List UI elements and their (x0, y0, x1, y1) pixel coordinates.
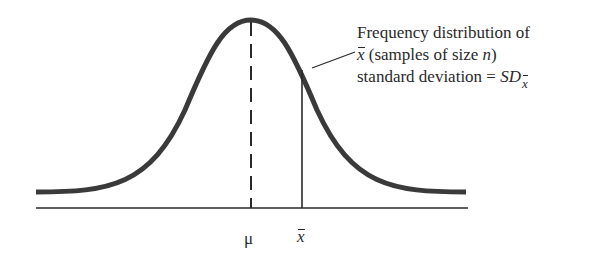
mu-label: μ (244, 228, 253, 250)
sd-subscript-x-bar: x (522, 73, 528, 95)
x-bar-symbol: x (357, 44, 365, 66)
n-symbol: n (483, 45, 492, 64)
annotation-line-2-text: (samples of size (365, 45, 483, 64)
annotation-leader-line (312, 52, 355, 68)
annotation-line-2-close: ) (491, 45, 497, 64)
sd-symbol: SD (500, 67, 521, 86)
annotation-line-1: Frequency distribution of (357, 22, 530, 44)
annotation-line-3-text: standard deviation = (357, 67, 500, 86)
annotation-line-2: x (samples of size n) (357, 44, 530, 66)
annotation-text: Frequency distribution of x (samples of … (357, 22, 530, 89)
annotation-line-3: standard deviation = SDx (357, 66, 530, 89)
x-bar-axis-symbol: x (297, 226, 305, 248)
x-bar-label: x (297, 226, 305, 248)
